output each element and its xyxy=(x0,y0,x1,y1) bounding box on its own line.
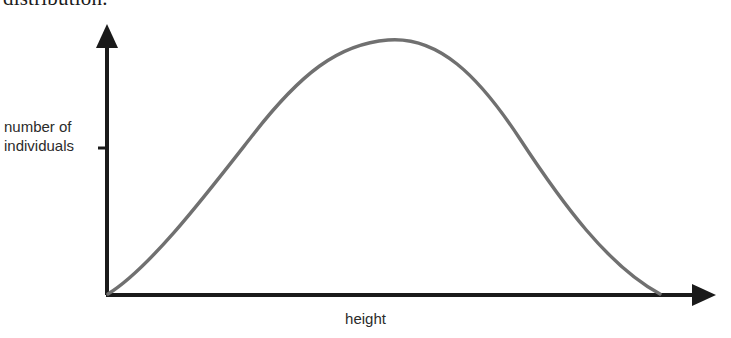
x-axis-arrowhead-icon xyxy=(692,284,716,306)
bell-curve-path xyxy=(108,40,660,294)
x-axis-label: height xyxy=(0,309,731,328)
y-axis-label: number of individuals xyxy=(4,117,74,155)
y-axis-label-line-1: number of xyxy=(4,117,74,136)
y-axis-label-line-2: individuals xyxy=(4,136,74,155)
figure-canvas: distribution. number of individuals heig… xyxy=(0,0,731,338)
distribution-chart xyxy=(0,0,731,338)
y-axis-arrowhead-icon xyxy=(96,24,118,48)
